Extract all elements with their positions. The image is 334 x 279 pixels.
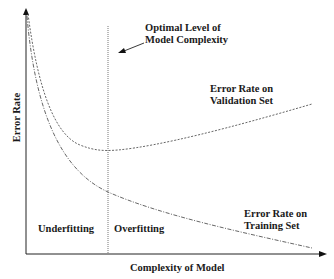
optimal-pointer-line	[124, 43, 144, 51]
validation-label-line1: Error Rate on	[210, 83, 273, 95]
overfitting-label: Overfitting	[114, 223, 164, 235]
optimal-label-line1: Optimal Level of	[145, 22, 228, 34]
x-axis-label: Complexity of Model	[130, 262, 225, 274]
training-label-line1: Error Rate on	[244, 208, 307, 220]
y-axis-arrow-icon	[23, 8, 29, 15]
optimal-pointer-arrow-icon	[118, 48, 126, 53]
optimal-complexity-label: Optimal Level of Model Complexity	[145, 22, 228, 45]
validation-label-line2: Validation Set	[210, 95, 273, 107]
x-axis-arrow-icon	[319, 251, 327, 257]
y-axis-label: Error Rate	[11, 88, 22, 148]
training-label-line2: Training Set	[244, 220, 307, 232]
optimal-label-line2: Model Complexity	[145, 34, 228, 46]
validation-error-label: Error Rate on Validation Set	[210, 83, 273, 106]
training-error-label: Error Rate on Training Set	[244, 208, 307, 231]
underfitting-label: Underfitting	[38, 223, 94, 235]
